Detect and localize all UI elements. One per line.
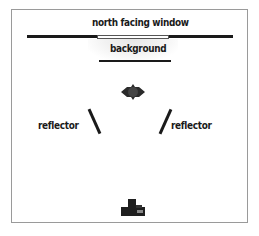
- subject-icon: [121, 84, 145, 100]
- background-line: [99, 60, 171, 62]
- window-opening: [97, 35, 169, 39]
- camera-icon: [121, 199, 145, 216]
- window-label: north facing window: [92, 16, 189, 28]
- reflector-left-label: reflector: [38, 119, 78, 131]
- reflector-right-label: reflector: [171, 119, 211, 131]
- background-label: background: [110, 42, 166, 54]
